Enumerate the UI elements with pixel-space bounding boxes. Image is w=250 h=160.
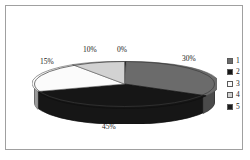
legend-label-3: 3 <box>236 80 240 88</box>
chart-legend: 1 2 3 4 5 <box>227 55 250 113</box>
legend-label-5: 5 <box>236 103 240 111</box>
chart-frame: 30% 45% 15% 10% 0% 1 2 3 4 5 <box>5 5 243 150</box>
legend-item-1[interactable]: 1 <box>227 55 250 67</box>
pie-label-slice-3: 15% <box>40 57 54 66</box>
legend-item-3[interactable]: 3 <box>227 78 250 90</box>
legend-label-4: 4 <box>236 91 240 99</box>
pie-label-slice-2: 45% <box>102 122 116 131</box>
legend-item-5[interactable]: 5 <box>227 101 250 113</box>
legend-item-2[interactable]: 2 <box>227 67 250 79</box>
legend-swatch-1-icon <box>227 58 233 64</box>
pie-chart-plot-area: 30% 45% 15% 10% 0% 1 2 3 4 5 <box>6 6 250 160</box>
pie-label-slice-4: 10% <box>83 45 97 54</box>
legend-swatch-5-icon <box>227 104 233 110</box>
legend-item-4[interactable]: 4 <box>227 90 250 102</box>
legend-swatch-2-icon <box>227 69 233 75</box>
legend-label-1: 1 <box>236 57 240 65</box>
legend-label-2: 2 <box>236 68 240 76</box>
pie-label-slice-5: 0% <box>117 45 127 54</box>
legend-swatch-4-icon <box>227 92 233 98</box>
pie-label-slice-1: 30% <box>182 54 196 63</box>
legend-swatch-3-icon <box>227 81 233 87</box>
